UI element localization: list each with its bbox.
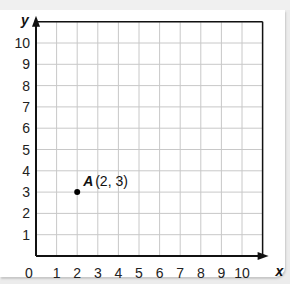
y-tick-label: 4 [22,163,30,179]
x-tick-label: 5 [135,265,143,281]
point-coordinates: (2, 3) [95,173,128,189]
x-tick-label: 4 [115,265,123,281]
y-tick-label: 2 [22,205,30,221]
y-tick-label: 3 [22,184,30,200]
x-tick-label: 8 [197,265,205,281]
x-tick-label: 3 [94,265,102,281]
y-tick-label: 9 [22,56,30,72]
y-tick-label: 7 [22,99,30,115]
point-label: A [82,173,93,189]
y-tick-label: 1 [22,227,30,243]
x-tick-label: 7 [176,265,184,281]
x-tick-label: 10 [234,265,250,281]
origin-label: 0 [25,265,33,281]
y-tick-label: 6 [22,120,30,136]
x-axis-label: x [275,263,285,279]
x-tick-label: 6 [156,265,164,281]
point-marker [74,189,80,195]
y-tick-label: 8 [22,78,30,94]
x-tick-label: 9 [218,265,226,281]
y-tick-label: 5 [22,142,30,158]
x-tick-label: 2 [73,265,81,281]
y-tick-label: 10 [14,35,30,51]
y-axis-label: y [20,12,30,28]
x-tick-label: 1 [53,265,61,281]
coordinate-grid-chart: xy01234567891012345678910A(2, 3) [0,0,290,284]
